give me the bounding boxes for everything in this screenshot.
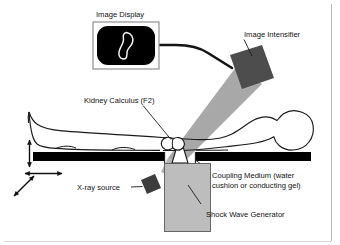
- shock-wave-generator-body: [165, 164, 211, 232]
- label-kidney-calculus: Kidney Calculus (F2): [84, 96, 155, 105]
- leader-line-xray-source: [131, 187, 143, 188]
- label-image-intensifier: Image Intensifier: [244, 30, 301, 39]
- label-xray-source: X-ray source: [77, 183, 120, 192]
- label-coupling-medium-line1: Coupling Medium (water: [212, 171, 295, 180]
- treatment-table-right: [196, 152, 311, 161]
- kidney-calculus-focus: [161, 137, 184, 150]
- treatment-table-left: [33, 152, 164, 161]
- label-image-display: Image Display: [96, 10, 144, 19]
- label-coupling-medium-line2: cushion or conducting gel): [212, 181, 301, 190]
- lithotripsy-diagram: Image Display Image Intensifier Kidney C…: [0, 0, 340, 245]
- label-shock-wave-generator: Shock Wave Generator: [206, 210, 285, 219]
